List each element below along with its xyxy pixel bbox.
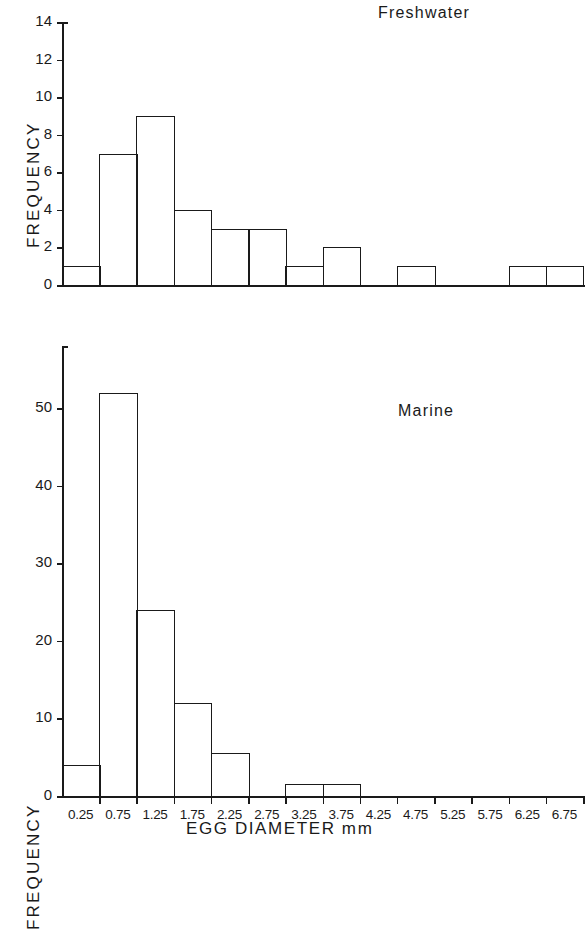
x-axis-tick: [583, 798, 585, 804]
x-axis-tick: [397, 798, 399, 804]
y-axis-tick: [57, 718, 63, 720]
x-axis-tick: [323, 798, 325, 804]
y-axis-tick-label: 10: [8, 708, 52, 725]
y-axis-tick: [57, 22, 63, 24]
x-axis-tick: [434, 798, 436, 804]
y-axis-tick-label: 14: [8, 12, 52, 29]
y-axis-tick: [57, 60, 63, 62]
histogram-bar: [211, 229, 250, 287]
x-axis-tick: [248, 798, 250, 804]
histogram-bar: [99, 393, 138, 798]
y-axis-line: [62, 346, 64, 798]
x-axis-tick-label: 6.75: [542, 807, 585, 822]
x-axis-tick: [471, 798, 473, 804]
x-axis-tick: [285, 798, 287, 804]
histogram-bar: [62, 266, 101, 286]
plot-area-freshwater: 02468101214: [0, 0, 585, 300]
y-axis-tick: [57, 247, 63, 249]
y-axis-tick: [57, 210, 63, 212]
histogram-bar: [211, 753, 250, 797]
histogram-bar: [174, 703, 213, 798]
histogram-bar: [248, 229, 287, 287]
x-axis-tick: [99, 798, 101, 804]
chart-panel-freshwater: Freshwater FREQUENCY 02468101214: [0, 0, 585, 300]
histogram-bar: [397, 266, 436, 286]
x-axis-tick: [174, 798, 176, 804]
y-axis-tick-label: 4: [8, 200, 52, 217]
y-axis-tick-label: 40: [8, 476, 52, 493]
histogram-bar: [323, 247, 362, 286]
y-axis-tick-label: 2: [8, 237, 52, 254]
y-axis-tick-label: 8: [8, 125, 52, 142]
histogram-bar: [323, 784, 362, 797]
x-axis-tick: [136, 798, 138, 804]
x-axis-title: EGG DIAMETER mm: [186, 819, 373, 839]
histogram-bar: [546, 266, 585, 286]
histogram-bar: [136, 610, 175, 798]
y-axis-tick-label: 0: [8, 275, 52, 292]
y-axis-tick-label: 10: [8, 87, 52, 104]
y-axis-tick: [57, 641, 63, 643]
histogram-bar: [174, 210, 213, 287]
x-axis-tick: [509, 798, 511, 804]
y-axis-tick: [57, 172, 63, 174]
histogram-bar: [62, 765, 101, 798]
histogram-bar: [509, 266, 548, 286]
x-axis-tick: [211, 798, 213, 804]
x-axis-tick: [360, 798, 362, 804]
y-axis-tick-label: 0: [8, 786, 52, 803]
histogram-bar: [285, 784, 324, 797]
y-axis-tick-label: 50: [8, 398, 52, 415]
y-axis-cap: [62, 346, 68, 348]
histogram-bar: [136, 116, 175, 287]
y-axis-tick-label: 30: [8, 553, 52, 570]
y-axis-tick: [57, 135, 63, 137]
y-axis-tick-label: 6: [8, 162, 52, 179]
plot-area-marine: 010203040500.250.751.251.752.252.753.253…: [0, 330, 585, 842]
y-axis-tick: [57, 408, 63, 410]
chart-panel-marine: Marine FREQUENCY 010203040500.250.751.25…: [0, 330, 585, 842]
y-axis-tick: [57, 486, 63, 488]
y-axis-tick-label: 20: [8, 631, 52, 648]
y-axis-tick: [57, 563, 63, 565]
histogram-bar: [99, 154, 138, 287]
x-axis-tick: [546, 798, 548, 804]
y-axis-tick: [57, 97, 63, 99]
histogram-bar: [285, 266, 324, 286]
y-axis-tick-label: 12: [8, 50, 52, 67]
